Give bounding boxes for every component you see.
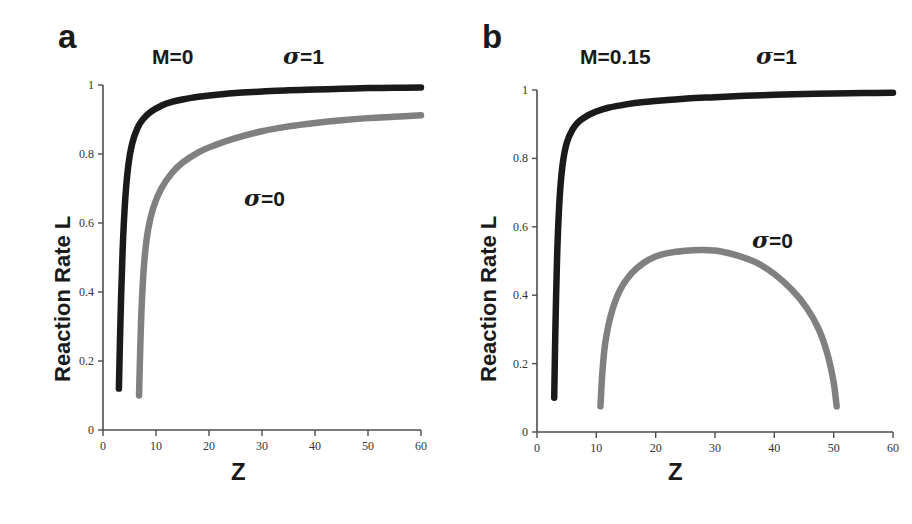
panel-b-ytick-2: 0.4 [513, 288, 528, 302]
panel-b: b M=0.15 σ=1 σ=0 Reaction Rate L Z 0 0.2… [456, 0, 912, 524]
panel-b-plot: 0 0.2 0.4 0.6 0.8 1 0 10 20 30 40 50 60 [456, 0, 912, 524]
panel-b-ytick-0: 0 [522, 425, 528, 439]
panel-a-xtick-3: 30 [256, 439, 268, 453]
panel-b-xtick-2: 20 [650, 441, 662, 455]
panel-a-xtick-4: 40 [309, 439, 321, 453]
panel-b-xtick-4: 40 [768, 441, 780, 455]
panel-b-curve-sigma-0 [600, 250, 836, 406]
panel-a-ytick-3: 0.6 [79, 216, 94, 230]
panel-b-xtick-3: 30 [709, 441, 721, 455]
panel-b-x-ticks [537, 432, 893, 438]
panel-a-ytick-4: 0.8 [79, 147, 94, 161]
panel-a-xtick-5: 50 [362, 439, 374, 453]
panel-a-xtick-2: 20 [203, 439, 215, 453]
panel-b-ytick-1: 0.2 [513, 357, 528, 371]
panel-b-xtick-1: 10 [590, 441, 602, 455]
figure-container: a M=0 σ=1 σ=0 Reaction Rate L Z 0 0.2 0.… [0, 0, 912, 524]
panel-a-curve-sigma-0 [139, 115, 421, 395]
panel-a-xtick-0: 0 [100, 439, 106, 453]
panel-b-ytick-4: 0.8 [513, 151, 528, 165]
panel-a-ytick-0: 0 [88, 423, 94, 437]
panel-a-plot: 0 0.2 0.4 0.6 0.8 1 0 10 20 30 40 50 60 [0, 0, 456, 524]
panel-b-xtick-6: 60 [887, 441, 899, 455]
panel-b-ytick-5: 1 [522, 83, 528, 97]
panel-a-ytick-5: 1 [88, 78, 94, 92]
panel-a-xtick-6: 60 [415, 439, 427, 453]
panel-b-xtick-5: 50 [828, 441, 840, 455]
panel-a-ytick-1: 0.2 [79, 354, 94, 368]
panel-b-xtick-0: 0 [534, 441, 540, 455]
panel-b-ytick-3: 0.6 [513, 220, 528, 234]
panel-a: a M=0 σ=1 σ=0 Reaction Rate L Z 0 0.2 0.… [0, 0, 456, 524]
panel-a-ytick-2: 0.4 [79, 285, 94, 299]
panel-a-xtick-1: 10 [150, 439, 162, 453]
panel-a-x-ticks [103, 430, 421, 436]
